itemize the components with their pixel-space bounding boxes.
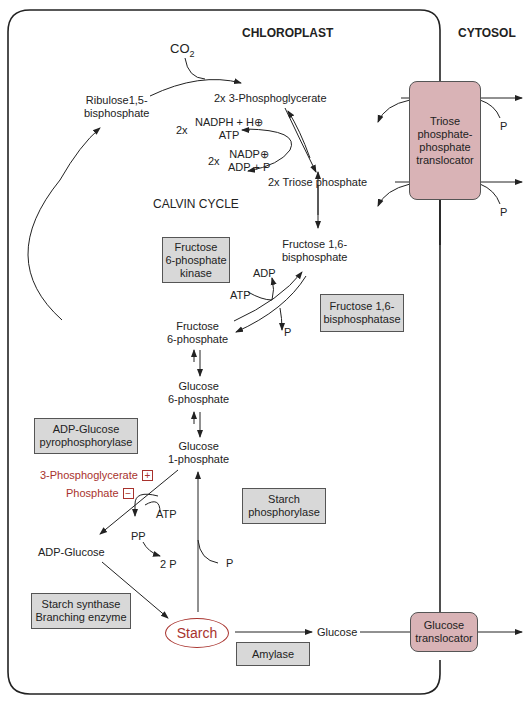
p-fbpase-label: P	[284, 326, 291, 339]
glucose-label: Glucose	[317, 626, 357, 639]
glucose-trans-line1: Glucose	[415, 619, 472, 632]
triose-label: 2x Triose phosphate	[268, 176, 367, 189]
pp-label: PP	[131, 530, 146, 543]
g1p-line1: Glucose	[168, 440, 229, 453]
atp-line: ATP	[195, 129, 263, 142]
fbp-label: Fructose 1,6- bisphosphate	[282, 238, 347, 264]
inhibitor-label: Phosphate−	[66, 487, 134, 500]
synthase-line2: Branching enzyme	[35, 611, 126, 624]
phosphorylase-line2: phosphorylase	[248, 506, 320, 519]
amylase-line1: Amylase	[252, 648, 294, 661]
fbpase-line2: bisphosphatase	[323, 313, 400, 326]
fbp-line2: bisphosphate	[282, 251, 347, 264]
adp-p-line: ADP + P	[228, 161, 270, 174]
enzyme-fbpase: Fructose 1,6-bisphosphatase	[320, 294, 404, 332]
tpt-line1: Triose	[416, 115, 473, 128]
inhibitor-text: Phosphate	[66, 487, 119, 499]
fbp-line1: Fructose 1,6-	[282, 238, 347, 251]
nadp-label: NADP⊕ ADP + P	[228, 148, 270, 174]
triose-phosphate-translocator: Triosephosphate-phosphatetranslocator	[409, 81, 481, 200]
tpt-line2: phosphate-	[416, 128, 473, 141]
tpt-line3: phosphate	[416, 141, 473, 154]
g1p-line2: 1-phosphate	[168, 453, 229, 466]
enzyme-starch-synthase: Starch synthaseBranching enzyme	[31, 593, 131, 629]
nadp-line1: NADP⊕	[228, 148, 270, 161]
adp-glucose-label: ADP-Glucose	[38, 546, 105, 559]
agpase-line2: pyrophosphorylase	[40, 436, 133, 449]
tpt-line4: translocator	[416, 154, 473, 167]
atp-agpase-label: ATP	[156, 508, 177, 521]
pga-label: 2x 3-Phosphoglycerate	[214, 92, 327, 105]
glucose-translocator: Glucosetranslocator	[410, 612, 478, 652]
f6p-label: Fructose 6-phosphate	[167, 320, 228, 346]
nadp-prefix: 2x	[208, 155, 220, 168]
enzyme-phosphorylase: Starchphosphorylase	[242, 488, 326, 524]
g6p-label: Glucose 6-phosphate	[168, 380, 229, 406]
nadph-label: NADPH + H⊕ ATP	[195, 116, 263, 142]
g1p-label: Glucose 1-phosphate	[168, 440, 229, 466]
synthase-line1: Starch synthase	[35, 598, 126, 611]
p-tpt2-label: P	[500, 206, 507, 219]
calvin-cycle-label: CALVIN CYCLE	[153, 198, 239, 211]
activator-text: 3-Phosphoglycerate	[40, 469, 138, 481]
nadph-prefix: 2x	[176, 124, 188, 137]
adp-label: ADP	[253, 267, 276, 280]
g6p-line1: Glucose	[168, 380, 229, 393]
cytosol-header: CYTOSOL	[458, 26, 516, 40]
enzyme-amylase: Amylase	[236, 642, 310, 666]
activator-label: 3-Phosphoglycerate+	[40, 469, 153, 482]
p-phosphorylase-label: P	[226, 557, 233, 570]
rubp-line2: bisphosphate	[84, 107, 149, 120]
f6p-line1: Fructose	[167, 320, 228, 333]
pfk-line1: Fructose	[165, 241, 226, 254]
pfk-line3: kinase	[165, 267, 226, 280]
f6p-line2: 6-phosphate	[167, 333, 228, 346]
minus-icon: −	[123, 488, 134, 499]
two-p-label: 2 P	[160, 558, 177, 571]
plus-icon: +	[142, 470, 153, 481]
p-tpt1-label: P	[500, 120, 507, 133]
starch-text: Starch	[177, 625, 217, 641]
co2-label: CO2	[170, 42, 195, 61]
atp-label: ATP	[230, 289, 251, 302]
g6p-line2: 6-phosphate	[168, 393, 229, 406]
phosphorylase-line1: Starch	[248, 493, 320, 506]
pfk-line2: 6-phosphate	[165, 254, 226, 267]
co2-text: CO	[170, 41, 190, 56]
fbpase-line1: Fructose 1,6-	[323, 300, 400, 313]
co2-subscript: 2	[190, 49, 195, 59]
agpase-line1: ADP-Glucose	[40, 423, 133, 436]
starch-node: Starch	[165, 618, 229, 648]
nadph-line1: NADPH + H⊕	[195, 116, 263, 129]
rubp-label: Ribulose1,5- bisphosphate	[84, 94, 149, 120]
enzyme-pfk: Fructose6-phosphatekinase	[162, 237, 230, 283]
enzyme-agpase: ADP-Glucosepyrophosphorylase	[34, 418, 138, 454]
glucose-trans-line2: translocator	[415, 632, 472, 645]
chloroplast-header: CHLOROPLAST	[242, 26, 333, 40]
rubp-line1: Ribulose1,5-	[84, 94, 149, 107]
